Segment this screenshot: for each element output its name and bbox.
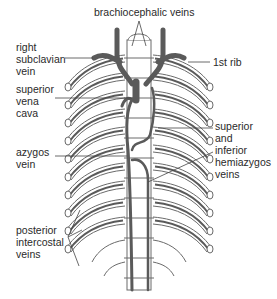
label-hemiazygos-veins: superior and inferior hemiazygos veins (215, 120, 271, 180)
ribs-left (65, 55, 125, 276)
label-superior-vena-cava: superior vena cava (16, 83, 54, 119)
label-right-subclavian-vein: right subclavian vein (16, 41, 66, 77)
azygos-system-diagram: brachiocephalic veins right subclavian v… (0, 0, 277, 299)
label-brachiocephalic-veins: brachiocephalic veins (94, 6, 194, 18)
label-posterior-intercostal-veins: posterior intercostal veins (16, 224, 64, 260)
label-azygos-vein: azygos vein (16, 146, 49, 170)
label-first-rib: 1st rib (213, 56, 242, 68)
